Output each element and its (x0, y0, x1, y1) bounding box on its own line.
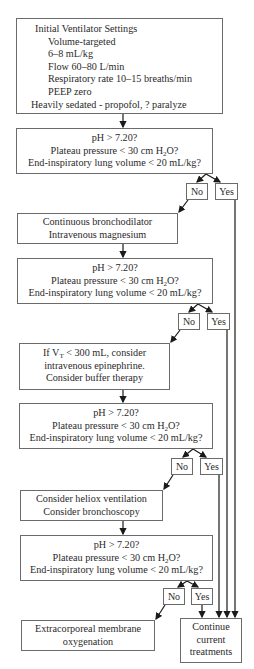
yes-label-1: Yes (215, 183, 238, 200)
no-label-4: No (163, 588, 185, 605)
decision-ph: pH > 7.20? (17, 132, 212, 145)
yes-label-4: Yes (191, 588, 213, 605)
step2-line-1: If VT < 300 mL, consider (20, 347, 169, 360)
setting-tidal-volume: 6–8 mL/kg (35, 48, 222, 61)
step2-line-2: intravenous epinephrine. (20, 360, 169, 373)
decision-box-1: pH > 7.20? Plateau pressure < 30 cm H2O?… (16, 128, 213, 174)
continue-line-1: Continue (181, 621, 241, 634)
decision-lung-volume: End-inspiratory lung volume < 20 mL/kg? (17, 157, 212, 170)
decision-lung-volume: End-inspiratory lung volume < 20 mL/kg? (18, 287, 212, 300)
initial-settings-title: Initial Ventilator Settings (35, 23, 222, 36)
yes-label-2: Yes (207, 313, 230, 330)
no-label-2: No (178, 313, 200, 330)
step2-line-3: Consider buffer therapy (20, 372, 169, 385)
continue-line-3: treatments (181, 646, 241, 659)
ecmo-line-2: oxygenation (22, 636, 154, 649)
ecmo-box: Extracorporeal membrane oxygenation (21, 620, 155, 651)
decision-plateau: Plateau pressure < 30 cm H2O? (21, 552, 212, 565)
bronchodilator-box: Continuous bronchodilator Intravenous ma… (17, 213, 178, 244)
epinephrine-buffer-box: If VT < 300 mL, consider intravenous epi… (19, 343, 170, 390)
decision-box-2: pH > 7.20? Plateau pressure < 30 cm H2O?… (17, 258, 213, 304)
decision-ph: pH > 7.20? (21, 539, 212, 552)
setting-respiratory-rate: Respiratory rate 10–15 breaths/min (35, 73, 222, 86)
no-label-3: No (171, 458, 193, 475)
setting-peep: PEEP zero (35, 86, 222, 99)
step3-line-1: Consider heliox ventilation (21, 493, 162, 506)
decision-lung-volume: End-inspiratory lung volume < 20 mL/kg? (21, 564, 212, 577)
continue-treatments-box: Continue current treatments (180, 618, 242, 663)
ecmo-line-1: Extracorporeal membrane (22, 623, 154, 636)
step1-line-2: Intravenous magnesium (18, 229, 177, 242)
decision-ph: pH > 7.20? (18, 262, 212, 275)
step3-line-2: Consider bronchoscopy (21, 506, 162, 519)
decision-plateau: Plateau pressure < 30 cm H2O? (18, 275, 212, 288)
step1-line-1: Continuous bronchodilator (18, 216, 177, 229)
continue-line-2: current (181, 634, 241, 647)
setting-flow: Flow 60–80 L/min (35, 61, 222, 74)
decision-plateau: Plateau pressure < 30 cm H2O? (17, 145, 212, 158)
setting-mode: Volume-targeted (35, 36, 222, 49)
yes-label-3: Yes (200, 458, 223, 475)
decision-ph: pH > 7.20? (20, 407, 212, 420)
decision-lung-volume: End-inspiratory lung volume < 20 mL/kg? (20, 432, 212, 445)
decision-plateau: Plateau pressure < 30 cm H2O? (20, 420, 212, 433)
decision-box-4: pH > 7.20? Plateau pressure < 30 cm H2O?… (20, 535, 213, 581)
heliox-bronchoscopy-box: Consider heliox ventilation Consider bro… (20, 490, 163, 521)
initial-settings-box: Initial Ventilator Settings Volume-targe… (16, 18, 223, 114)
no-label-1: No (186, 183, 208, 200)
decision-box-3: pH > 7.20? Plateau pressure < 30 cm H2O?… (19, 403, 213, 449)
setting-sedation: Heavily sedated - propofol, ? paralyze (31, 99, 222, 112)
